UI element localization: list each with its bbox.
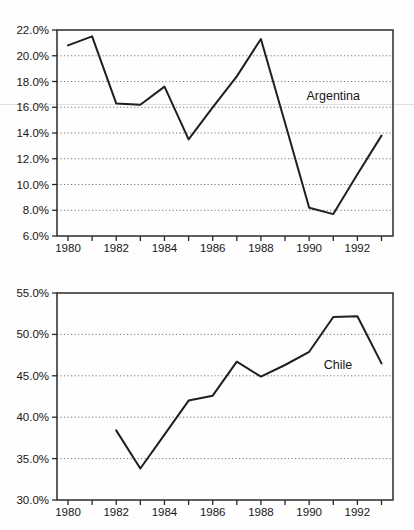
y-tick-label: 14.0%: [16, 127, 49, 139]
y-tick-label: 12.0%: [16, 153, 49, 165]
x-tick-label: 1980: [55, 242, 81, 254]
chile-plot: 55.0%50.0%45.0%40.0%35.0%30.0%1980198219…: [0, 265, 414, 530]
y-tick-label: 40.0%: [16, 411, 49, 423]
y-tick-label: 22.0%: [16, 24, 49, 36]
x-tick-label: 1988: [248, 506, 274, 518]
x-tick-label: 1986: [200, 506, 226, 518]
y-tick-label: 16.0%: [16, 101, 49, 113]
plot-frame: [57, 293, 393, 500]
y-tick-label: 45.0%: [16, 370, 49, 382]
x-tick-label: 1990: [296, 242, 322, 254]
x-tick-label: 1992: [345, 506, 371, 518]
argentina-plot: 22.0%20.0%18.0%16.0%14.0%12.0%10.0%8.0%6…: [0, 0, 414, 265]
x-tick-label: 1984: [152, 506, 178, 518]
y-tick-label: 50.0%: [16, 328, 49, 340]
y-tick-label: 55.0%: [16, 287, 49, 299]
argentina-chart: 22.0%20.0%18.0%16.0%14.0%12.0%10.0%8.0%6…: [0, 0, 414, 265]
y-tick-label: 20.0%: [16, 50, 49, 62]
x-tick-label: 1986: [200, 242, 226, 254]
x-tick-label: 1990: [296, 506, 322, 518]
x-tick-label: 1980: [55, 506, 81, 518]
argentina-series-label: Argentina: [307, 89, 361, 103]
y-tick-label: 8.0%: [23, 204, 49, 216]
x-tick-label: 1988: [248, 242, 274, 254]
chile-chart: 55.0%50.0%45.0%40.0%35.0%30.0%1980198219…: [0, 265, 414, 530]
y-tick-label: 18.0%: [16, 76, 49, 88]
y-tick-label: 6.0%: [23, 230, 49, 242]
x-tick-label: 1982: [103, 242, 129, 254]
x-tick-label: 1992: [345, 242, 371, 254]
argentina-series-line: [68, 36, 382, 214]
x-tick-label: 1984: [152, 242, 178, 254]
x-tick-label: 1982: [103, 506, 129, 518]
chile-series-label: Chile: [324, 358, 353, 372]
y-tick-label: 30.0%: [16, 494, 49, 506]
y-tick-label: 35.0%: [16, 453, 49, 465]
y-tick-label: 10.0%: [16, 179, 49, 191]
chile-series-line: [116, 316, 381, 468]
figure-page: 22.0%20.0%18.0%16.0%14.0%12.0%10.0%8.0%6…: [0, 0, 414, 530]
